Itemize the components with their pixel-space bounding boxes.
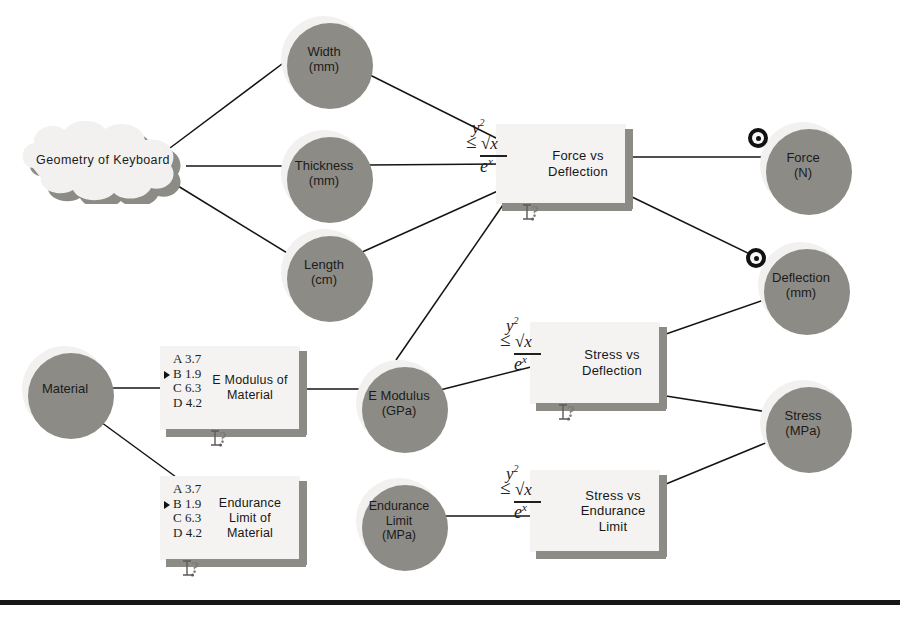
edge-stress-vs-deflection-stress xyxy=(666,396,768,412)
box-label: E Modulus of Material xyxy=(204,346,296,430)
target-ring xyxy=(750,252,762,264)
help-cursor-icon: ? xyxy=(180,558,206,580)
node-material[interactable]: Material xyxy=(22,346,108,432)
target-center-dot xyxy=(754,256,759,261)
option-row-d[interactable]: D 4.2 xyxy=(164,526,202,541)
help-cursor-icon: ? xyxy=(556,402,582,424)
equation-relation: ≤ xyxy=(500,330,510,349)
node-e-modulus[interactable]: E Modulus (GPa) xyxy=(356,360,442,446)
box-label: Force vs Deflection xyxy=(534,124,622,204)
box-shadow-right xyxy=(659,327,667,409)
help-cursor-icon: ? xyxy=(520,202,546,224)
option-row-c[interactable]: C 6.3 xyxy=(164,511,202,526)
node-stress[interactable]: Stress (MPa) xyxy=(760,380,846,466)
equation-denominator: ex xyxy=(514,354,527,373)
box-shadow-bottom xyxy=(166,429,306,437)
edge-geometry-length xyxy=(178,186,292,256)
equation-relation: ≤ xyxy=(500,478,510,497)
box-label: Stress vs Endurance Limit xyxy=(570,470,656,552)
help-cursor-icon: ? xyxy=(208,428,234,450)
node-length[interactable]: Length (cm) xyxy=(281,229,367,315)
target-icon xyxy=(748,128,768,148)
option-list-icon[interactable]: A 3.7B 1.9C 6.3D 4.2 xyxy=(164,482,202,540)
box-label: Endurance Limit of Material xyxy=(204,476,296,560)
node-thickness[interactable]: Thickness (mm) xyxy=(281,130,367,216)
node-label: Deflection (mm) xyxy=(767,270,835,301)
box-shadow-right xyxy=(659,475,667,557)
option-row-b[interactable]: B 1.9 xyxy=(164,367,202,382)
equation-denominator: ex xyxy=(480,156,493,175)
node-label: Material xyxy=(37,381,93,396)
box-shadow-right xyxy=(625,129,633,209)
option-row-a[interactable]: A 3.7 xyxy=(164,352,202,367)
edge-stress-vs-endurance-stress xyxy=(666,442,768,484)
edge-force-vs-deflection-deflection xyxy=(630,196,756,257)
diagram-canvas: Geometry of Keyboard Width (mm)Thickness… xyxy=(0,0,900,618)
option-list-icon[interactable]: A 3.7B 1.9C 6.3D 4.2 xyxy=(164,352,202,410)
box-label: Stress vs Deflection xyxy=(568,322,656,404)
node-deflection[interactable]: Deflection (mm) xyxy=(758,242,844,328)
equation-icon: y2≤√xex xyxy=(498,464,556,528)
edge-length-force-vs-deflection xyxy=(360,190,500,253)
option-row-b[interactable]: B 1.9 xyxy=(164,497,202,512)
option-row-d[interactable]: D 4.2 xyxy=(164,396,202,411)
option-row-c[interactable]: C 6.3 xyxy=(164,381,202,396)
option-row-a[interactable]: A 3.7 xyxy=(164,482,202,497)
equation-radical: √x xyxy=(481,135,498,152)
box-shadow-bottom xyxy=(536,551,666,559)
box-shadow-right xyxy=(299,481,307,565)
edge-deflection-stress-vs-deflection xyxy=(666,300,764,334)
equation-radical: √x xyxy=(515,333,532,350)
bottom-rule xyxy=(0,600,900,605)
target-center-dot xyxy=(756,136,761,141)
node-label: Force (N) xyxy=(781,150,824,181)
edge-emodulus-force-vs-deflection xyxy=(396,202,505,360)
equation-icon: y2≤√xex xyxy=(498,316,556,380)
node-endurance-limit[interactable]: Endurance Limit (MPa) xyxy=(356,478,442,564)
equation-radical: √x xyxy=(515,481,532,498)
node-label: Stress (MPa) xyxy=(780,408,827,439)
node-label: Thickness (mm) xyxy=(290,158,359,189)
target-ring xyxy=(752,132,764,144)
target-icon xyxy=(746,248,766,268)
node-force[interactable]: Force (N) xyxy=(760,122,846,208)
equation-relation: ≤ xyxy=(466,132,476,151)
node-label: E Modulus (GPa) xyxy=(363,388,434,419)
node-label: Length (cm) xyxy=(299,257,349,288)
node-width[interactable]: Width (mm) xyxy=(281,16,367,102)
equation-icon: y2≤√xex xyxy=(464,118,522,182)
node-label: Width (mm) xyxy=(302,44,345,75)
node-label: Endurance Limit (MPa) xyxy=(364,499,434,543)
equation-denominator: ex xyxy=(514,502,527,521)
cloud-node-label: Geometry of Keyboard xyxy=(14,116,192,204)
box-shadow-right xyxy=(299,351,307,435)
node-geometry-of-keyboard[interactable]: Geometry of Keyboard xyxy=(14,116,192,204)
